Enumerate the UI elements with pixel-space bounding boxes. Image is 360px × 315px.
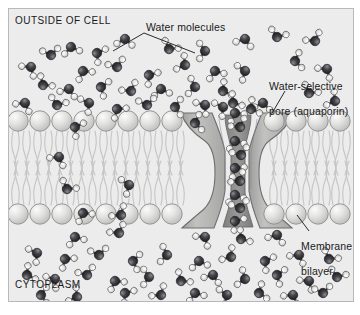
head-groups-lower — [9, 204, 350, 224]
label-membrane-bilayer: Membrane bilayer — [283, 227, 352, 290]
label-membrane-bilayer-line2: bilayer — [301, 265, 333, 277]
aquaporin-diagram: OUTSIDE OF CELL Water molecules Water-se… — [0, 0, 360, 315]
label-outside-of-cell: OUTSIDE OF CELL — [15, 15, 111, 28]
label-aquaporin-pore: Water-selective pore (aquaporin) — [251, 67, 348, 130]
label-water-molecules: Water molecules — [146, 21, 225, 34]
label-membrane-bilayer-line1: Membrane — [301, 240, 352, 252]
label-aquaporin-pore-line1: Water-selective — [269, 80, 342, 92]
label-cytoplasm: CYTOPLASM — [15, 279, 81, 292]
diagram-frame: OUTSIDE OF CELL Water molecules Water-se… — [8, 8, 354, 302]
label-aquaporin-pore-line2: pore (aquaporin) — [269, 105, 348, 117]
